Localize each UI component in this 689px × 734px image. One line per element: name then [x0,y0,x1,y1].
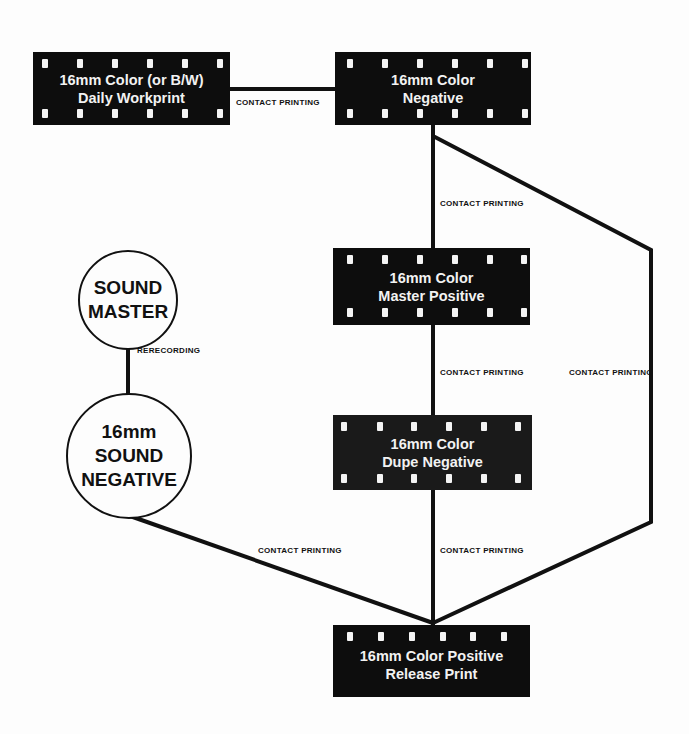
node-label: 16mm Color (or B/W) [33,71,230,89]
edge-sound-release [130,516,433,623]
node-label: Release Print [333,665,530,683]
node-label: Negative [335,89,531,107]
node-label: Master Positive [333,287,530,305]
edge-label: CONTACT PRINTING [440,546,524,555]
edge-label: CONTACT PRINTING [258,546,342,555]
node-daily-workprint: 16mm Color (or B/W)Daily Workprint [33,52,230,125]
edge-label: RERECORDING [137,346,200,355]
node-label: Daily Workprint [33,89,230,107]
node-color-negative: 16mm ColorNegative [335,52,531,125]
edge-label: CONTACT PRINTING [236,98,320,107]
node-sound-master: SOUND MASTER [78,250,178,350]
node-dupe-negative: 16mm ColorDupe Negative [333,415,532,490]
node-label: SOUND [94,276,163,300]
edge-label: CONTACT PRINTING [440,199,524,208]
node-label: NEGATIVE [81,468,177,492]
node-label: SOUND [95,444,164,468]
node-master-positive: 16mm ColorMaster Positive [333,248,530,325]
node-label: Dupe Negative [333,453,532,471]
edge-label: CONTACT PRINTING [569,368,653,377]
node-label: 16mm Color [333,435,532,453]
edge-label: CONTACT PRINTING [440,368,524,377]
node-label: 16mm Color [335,71,531,89]
node-label: MASTER [88,300,168,324]
node-label: 16mm [102,420,157,444]
node-label: 16mm Color [333,269,530,287]
node-release-print: 16mm Color PositiveRelease Print [333,625,530,697]
node-sound-negative: 16mm SOUND NEGATIVE [66,393,192,519]
node-label: 16mm Color Positive [333,647,530,665]
